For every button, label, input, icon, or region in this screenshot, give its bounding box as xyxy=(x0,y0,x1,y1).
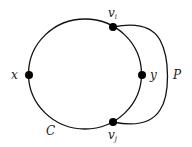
vertex-x xyxy=(25,71,33,79)
label-cycle-c: C xyxy=(46,124,55,138)
vertex-v-j xyxy=(109,118,117,126)
vertex-v-i xyxy=(109,23,117,31)
label-x: x xyxy=(11,68,18,82)
cycle-c xyxy=(29,19,142,129)
label-v-i-sub: i xyxy=(115,13,117,21)
label-y: y xyxy=(149,68,157,82)
label-path-p: P xyxy=(172,68,182,82)
cycle-path-diagram: vi vj x y C P xyxy=(0,0,192,147)
label-v-j: vj xyxy=(108,128,118,143)
vertex-y xyxy=(138,71,146,79)
label-v-i: vi xyxy=(108,6,117,21)
